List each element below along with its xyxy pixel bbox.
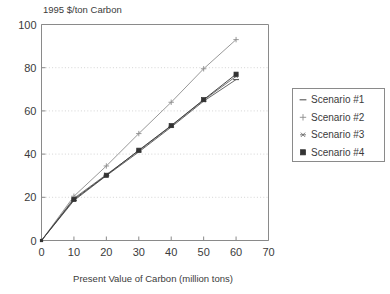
y-axis-title: 1995 $/ton Carbon — [43, 4, 122, 15]
data-point-marker — [137, 148, 141, 152]
x-tick-label-60: 60 — [230, 246, 242, 258]
y-tick-label-20: 20 — [24, 191, 36, 203]
series-1 — [42, 80, 239, 241]
x-tick-labels: 010203040506070 — [38, 246, 274, 258]
x-tick-label-50: 50 — [198, 246, 210, 258]
x-tick-label-20: 20 — [100, 246, 112, 258]
y-tick-label-100: 100 — [18, 19, 36, 31]
series-line — [42, 80, 237, 241]
legend-item-label: Scenario #2 — [311, 112, 365, 123]
data-point-marker — [72, 197, 76, 201]
chart-figure: 1995 $/ton Carbon 020406080100 010203040… — [0, 0, 390, 294]
y-tick-label-40: 40 — [24, 148, 36, 160]
gridlines-group — [43, 68, 268, 198]
y-tick-labels: 020406080100 — [18, 19, 36, 247]
origin-marker — [40, 239, 43, 242]
data-point-marker — [202, 98, 206, 102]
series-3 — [42, 75, 239, 241]
legend-item-label: Scenario #4 — [311, 147, 365, 158]
x-tick-label-70: 70 — [262, 246, 274, 258]
y-tick-label-60: 60 — [24, 105, 36, 117]
data-point-marker — [234, 72, 238, 76]
chart-legend: Scenario #1Scenario #2Scenario #3Scenari… — [293, 89, 385, 162]
x-tick-label-30: 30 — [133, 246, 145, 258]
line-chart: 1995 $/ton Carbon 020406080100 010203040… — [0, 0, 390, 294]
plot-frame — [42, 25, 269, 241]
data-point-marker — [104, 173, 108, 177]
x-tick-label-0: 0 — [38, 246, 44, 258]
data-point-marker — [300, 150, 305, 155]
x-tick-label-40: 40 — [165, 246, 177, 258]
data-point-marker — [169, 123, 173, 127]
x-axis-title: Present Value of Carbon (million tons) — [73, 273, 233, 284]
series-line — [42, 76, 237, 240]
legend-item-label: Scenario #3 — [311, 129, 365, 140]
y-tick-label-0: 0 — [30, 235, 36, 247]
legend-item-4[interactable]: Scenario #4 — [300, 147, 364, 158]
x-tick-label-10: 10 — [68, 246, 80, 258]
y-tick-label-80: 80 — [24, 62, 36, 74]
tick-marks-group — [42, 25, 269, 241]
series-line — [42, 40, 237, 241]
legend-item-label: Scenario #1 — [311, 94, 365, 105]
